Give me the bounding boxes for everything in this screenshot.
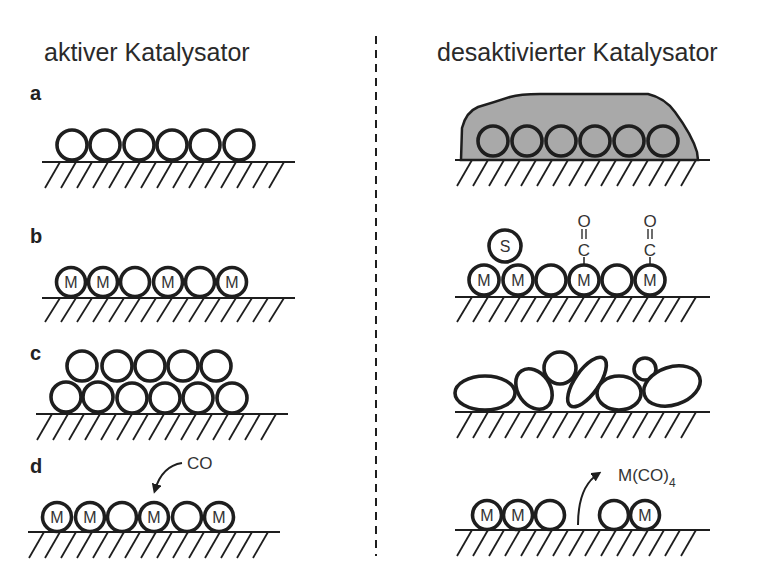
atom-row: M M M M xyxy=(469,265,665,295)
metal-label: M xyxy=(212,509,225,526)
carbonyl-main: M(CO) xyxy=(618,466,669,485)
panel-label-b: b xyxy=(30,225,42,247)
carbonyl-subscript: 4 xyxy=(669,476,676,490)
carbon-label: C xyxy=(578,241,590,260)
panel-d-deactivated: M M M M(CO)4 xyxy=(455,466,710,556)
co-label: CO xyxy=(187,454,213,473)
co-ligand: C O xyxy=(577,212,590,265)
surface-substrate xyxy=(28,532,280,558)
carbonyl-leaving-arrow xyxy=(578,474,598,525)
surface-substrate xyxy=(455,530,710,556)
atom-row: M M M M xyxy=(57,268,247,297)
metal-label: M xyxy=(643,272,656,289)
panel-label-d: d xyxy=(30,455,42,477)
panel-a-active xyxy=(42,130,295,188)
metal-label: M xyxy=(50,509,63,526)
surface-substrate xyxy=(455,412,710,438)
atom-row: M M M M xyxy=(43,503,234,532)
co-incoming-arrow xyxy=(155,463,182,490)
atom-top-row xyxy=(67,351,231,381)
metal-label: M xyxy=(147,509,160,526)
surface-substrate xyxy=(36,414,288,440)
oxygen-label: O xyxy=(577,212,590,231)
atom-bottom-row xyxy=(51,382,247,413)
metal-label: M xyxy=(511,507,524,524)
metal-label: M xyxy=(225,274,238,291)
sulfur-label: S xyxy=(500,238,511,255)
panel-label-a: a xyxy=(30,82,42,104)
surface-substrate xyxy=(42,162,295,188)
panel-label-c: c xyxy=(30,342,41,364)
metal-label: M xyxy=(511,272,524,289)
panel-d-active: M M M M CO xyxy=(28,454,280,558)
metal-label: M xyxy=(161,274,174,291)
carbon-label: C xyxy=(644,241,656,260)
oxygen-label: O xyxy=(643,212,656,231)
metal-label: M xyxy=(477,272,490,289)
metal-label: M xyxy=(480,507,493,524)
metal-label: M xyxy=(638,507,651,524)
surface-substrate xyxy=(455,297,710,322)
panel-c-deactivated xyxy=(455,351,710,438)
catalyst-deactivation-diagram: aktiver Katalysator desaktivierter Katal… xyxy=(0,0,774,580)
co-ligand: C O xyxy=(643,212,656,265)
header-active-catalyst: aktiver Katalysator xyxy=(44,38,250,66)
panel-c-active xyxy=(36,351,288,440)
surface-substrate xyxy=(455,160,710,186)
atom-row-depleted: M M M xyxy=(473,501,660,530)
sintered-particles xyxy=(455,351,705,416)
panel-b-active: M M M M xyxy=(42,268,295,323)
surface-substrate xyxy=(42,298,295,322)
atom-row xyxy=(57,130,254,160)
metal-label: M xyxy=(577,272,590,289)
metal-label: M xyxy=(96,274,109,291)
carbonyl-label: M(CO)4 xyxy=(618,466,676,490)
panel-a-deactivated xyxy=(455,94,710,186)
metal-label: M xyxy=(64,274,77,291)
metal-label: M xyxy=(83,509,96,526)
sulfur-adsorbate: S xyxy=(489,230,521,262)
header-deactivated-catalyst: desaktivierter Katalysator xyxy=(437,38,718,66)
panel-b-deactivated: S M M M M C O C O xyxy=(455,212,710,322)
